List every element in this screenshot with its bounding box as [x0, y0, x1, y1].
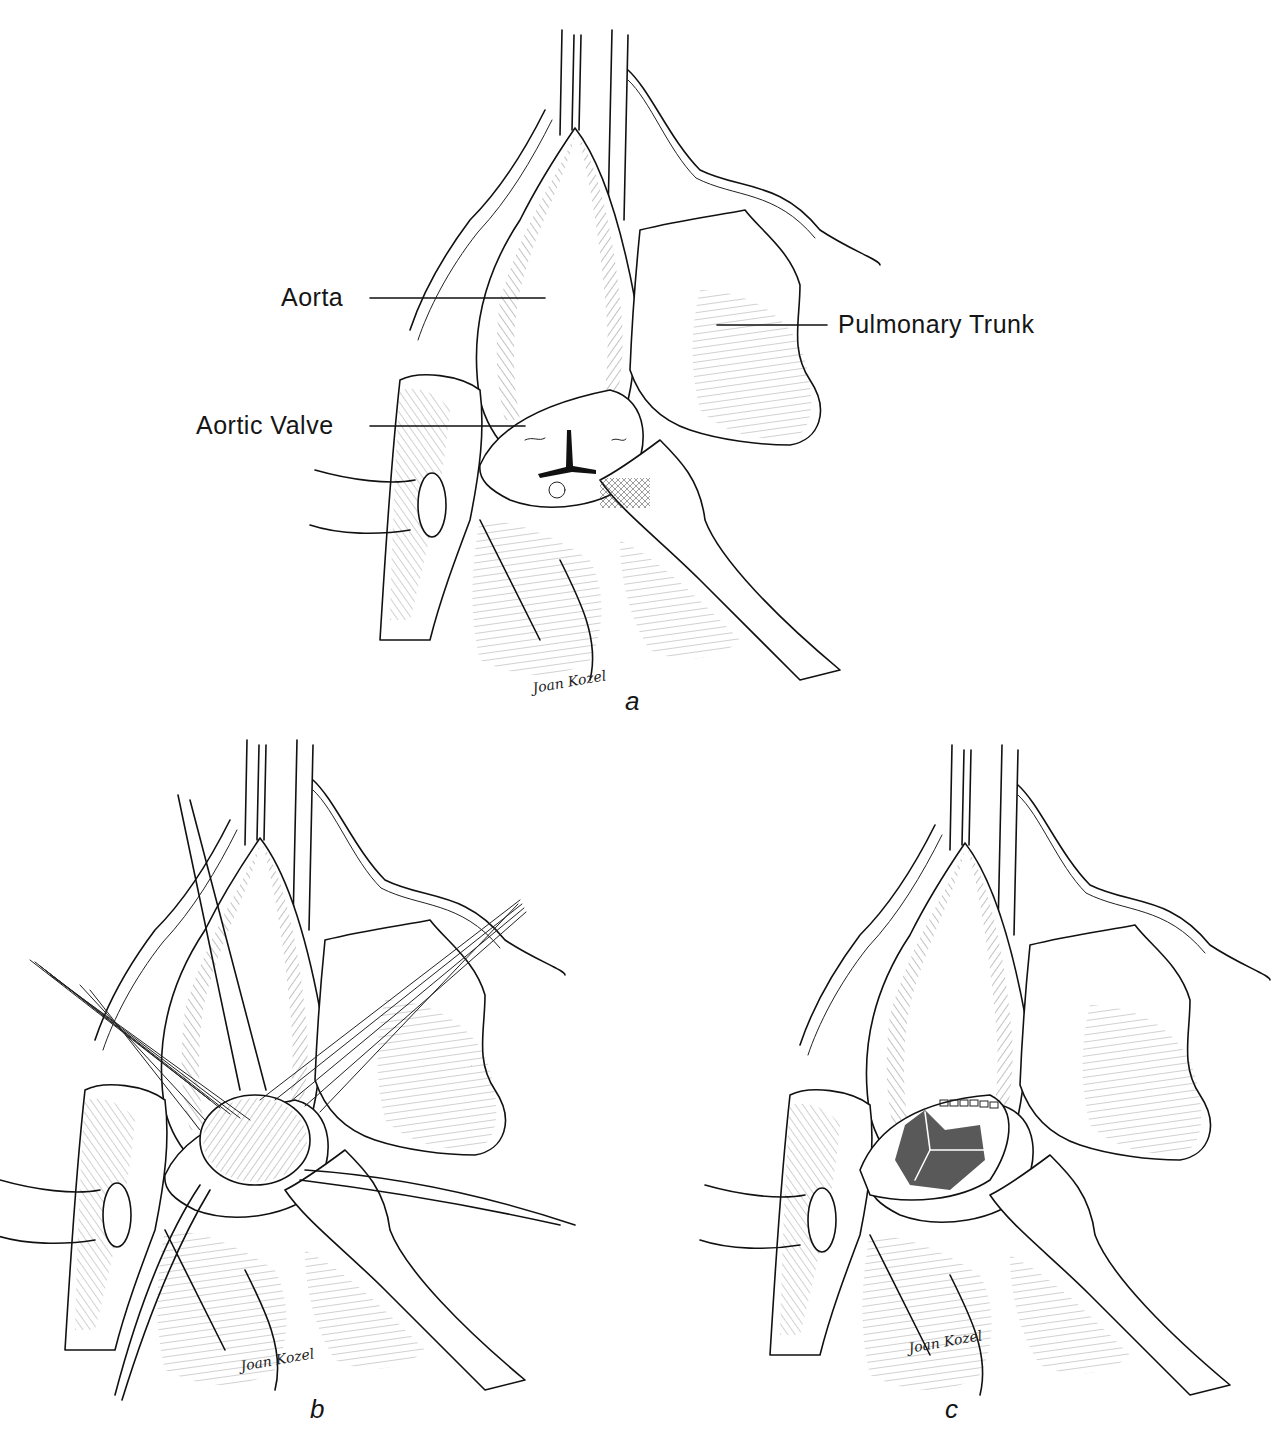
label-aorta: Aorta	[281, 283, 343, 312]
label-pulmonary-trunk: Pulmonary Trunk	[838, 310, 1034, 339]
illustration-canvas	[0, 0, 1275, 1435]
panel-b-drawing	[0, 740, 575, 1400]
panel-c-drawing	[700, 745, 1270, 1395]
panel-letter-b: b	[310, 1394, 324, 1425]
panel-a-drawing	[310, 30, 880, 680]
panel-letter-c: c	[945, 1394, 958, 1425]
label-aortic-valve: Aortic Valve	[196, 411, 334, 440]
panel-letter-a: a	[625, 686, 639, 717]
